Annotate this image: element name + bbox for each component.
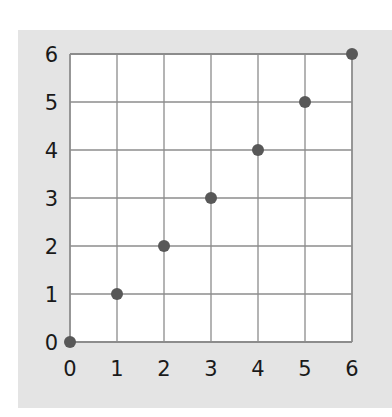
y-tick-label: 0 bbox=[45, 331, 58, 355]
y-axis-tick-labels: 0123456 bbox=[45, 43, 58, 355]
y-tick-label: 1 bbox=[45, 283, 58, 307]
data-point bbox=[252, 144, 264, 156]
y-tick-label: 2 bbox=[45, 235, 58, 259]
scatter-chart: 0123456 0123456 bbox=[0, 0, 392, 417]
data-point bbox=[158, 240, 170, 252]
y-tick-label: 6 bbox=[45, 43, 58, 67]
x-tick-label: 1 bbox=[110, 357, 123, 381]
x-tick-label: 5 bbox=[298, 357, 311, 381]
x-tick-label: 4 bbox=[251, 357, 264, 381]
data-point bbox=[346, 48, 358, 60]
y-tick-label: 3 bbox=[45, 187, 58, 211]
x-axis-tick-labels: 0123456 bbox=[63, 357, 358, 381]
data-point bbox=[299, 96, 311, 108]
x-tick-label: 0 bbox=[63, 357, 76, 381]
data-point bbox=[111, 288, 123, 300]
y-tick-label: 4 bbox=[45, 139, 58, 163]
x-tick-label: 6 bbox=[345, 357, 358, 381]
x-tick-label: 3 bbox=[204, 357, 217, 381]
data-point bbox=[64, 336, 76, 348]
data-point bbox=[205, 192, 217, 204]
x-tick-label: 2 bbox=[157, 357, 170, 381]
y-tick-label: 5 bbox=[45, 91, 58, 115]
